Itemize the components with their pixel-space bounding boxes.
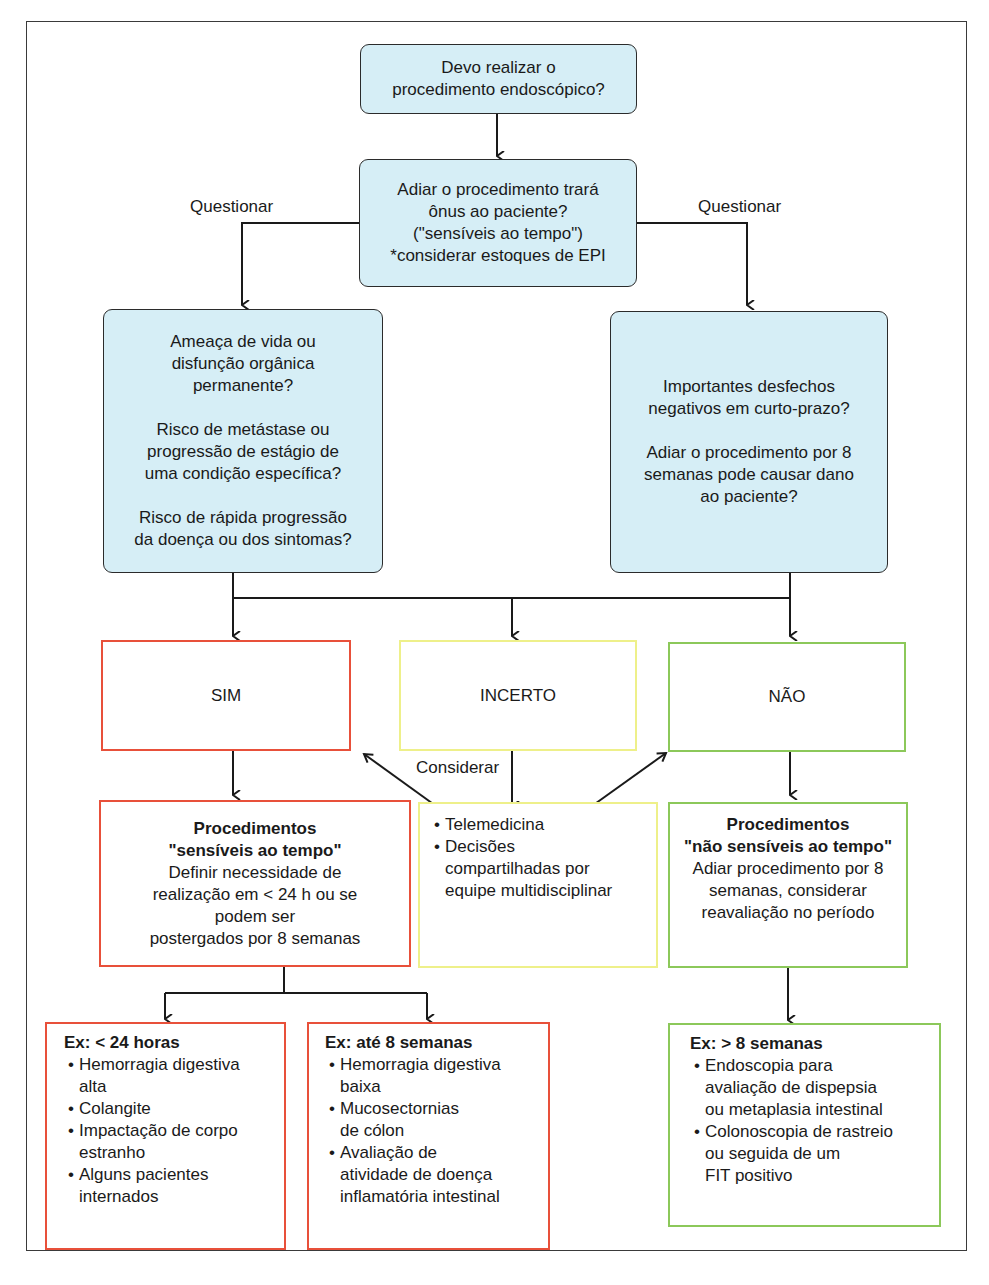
list-item: Alguns pacientes internados — [66, 1164, 240, 1208]
question-line: Risco de rápida progressão — [139, 507, 347, 529]
edge-label-left-questionar: Questionar — [190, 197, 273, 217]
outcome-text: postergados por 8 semanas — [150, 928, 361, 950]
start-question-line: Devo realizar o — [441, 57, 555, 79]
burden-question-line: ônus ao paciente? — [429, 201, 568, 223]
outcome-title: "sensíveis ao tempo" — [169, 840, 342, 862]
outcome-title: "não sensíveis ao tempo" — [684, 836, 892, 858]
list-item: Impactação de corpo estranho — [66, 1120, 240, 1164]
consider-options-box: Telemedicina Decisões compartilhadas por… — [418, 802, 658, 968]
list-item: Decisões compartilhadas por equipe multi… — [432, 836, 612, 902]
time-sensitive-procedures-box: Procedimentos "sensíveis ao tempo" Defin… — [99, 800, 411, 967]
example-over-8w-box: Ex: > 8 semanas Endoscopia para avaliaçã… — [668, 1023, 941, 1227]
outcome-text: Adiar procedimento por 8 — [693, 858, 884, 880]
burden-question-line: Adiar o procedimento trará — [397, 179, 598, 201]
burden-question-line: ("sensíveis ao tempo") — [413, 223, 583, 245]
question-line: disfunção orgânica — [172, 353, 315, 375]
question-line: da doença ou dos sintomas? — [134, 529, 351, 551]
list-item: Hemorragia digestiva alta — [66, 1054, 240, 1098]
example-title: Ex: < 24 horas — [64, 1032, 180, 1054]
not-time-sensitive-procedures-box: Procedimentos "não sensíveis ao tempo" A… — [668, 802, 908, 968]
answer-yes-box: SIM — [101, 640, 351, 751]
question-line: ao paciente? — [700, 486, 797, 508]
question-line: Importantes desfechos — [663, 376, 835, 398]
list-item: Mucosectornias de cólon — [327, 1098, 501, 1142]
question-line: uma condição específica? — [145, 463, 342, 485]
outcome-text: realização em < 24 h ou se — [153, 884, 358, 906]
outcome-text: podem ser — [215, 906, 295, 928]
example-list: Hemorragia digestiva baixa Mucosectornia… — [327, 1054, 501, 1208]
severity-questions-box: Ameaça de vida ou disfunção orgânica per… — [103, 309, 383, 573]
list-item: Telemedicina — [432, 814, 612, 836]
start-question-line: procedimento endoscópico? — [392, 79, 605, 101]
list-item: Colonoscopia de rastreio ou seguida de u… — [692, 1121, 893, 1187]
example-title: Ex: > 8 semanas — [690, 1033, 823, 1055]
answer-no-box: NÃO — [668, 642, 906, 752]
answer-no-label: NÃO — [769, 686, 806, 708]
question-line: permanente? — [193, 375, 293, 397]
question-line: progressão de estágio de — [147, 441, 339, 463]
answer-uncertain-box: INCERTO — [399, 640, 637, 751]
short-term-questions-box: Importantes desfechos negativos em curto… — [610, 311, 888, 573]
list-item: Hemorragia digestiva baixa — [327, 1054, 501, 1098]
edge-label-right-questionar: Questionar — [698, 197, 781, 217]
outcome-text: Definir necessidade de — [169, 862, 342, 884]
list-item: Endoscopia para avaliação de dispepsia o… — [692, 1055, 893, 1121]
outcome-text: reavaliação no período — [702, 902, 875, 924]
question-line: Adiar o procedimento por 8 — [646, 442, 851, 464]
burden-question-line: *considerar estoques de EPI — [390, 245, 605, 267]
question-line: Ameaça de vida ou — [170, 331, 316, 353]
consider-options-list: Telemedicina Decisões compartilhadas por… — [432, 814, 612, 902]
question-line: Risco de metástase ou — [157, 419, 330, 441]
question-line: semanas pode causar dano — [644, 464, 854, 486]
example-up-to-8w-box: Ex: até 8 semanas Hemorragia digestiva b… — [307, 1022, 550, 1250]
example-list: Endoscopia para avaliação de dispepsia o… — [692, 1055, 893, 1187]
example-under-24h-box: Ex: < 24 horas Hemorragia digestiva alta… — [45, 1022, 286, 1250]
question-line: negativos em curto-prazo? — [648, 398, 849, 420]
answer-uncertain-label: INCERTO — [480, 685, 556, 707]
list-item: Avaliação de atividade de doença inflama… — [327, 1142, 501, 1208]
list-item: Colangite — [66, 1098, 240, 1120]
example-list: Hemorragia digestiva alta Colangite Impa… — [66, 1054, 240, 1208]
outcome-title: Procedimentos — [194, 818, 317, 840]
edge-label-considerar: Considerar — [416, 758, 499, 778]
example-title: Ex: até 8 semanas — [325, 1032, 472, 1054]
start-question-box: Devo realizar o procedimento endoscópico… — [360, 44, 637, 114]
outcome-text: semanas, considerar — [709, 880, 867, 902]
burden-question-box: Adiar o procedimento trará ônus ao pacie… — [359, 159, 637, 287]
answer-yes-label: SIM — [211, 685, 241, 707]
outcome-title: Procedimentos — [727, 814, 850, 836]
